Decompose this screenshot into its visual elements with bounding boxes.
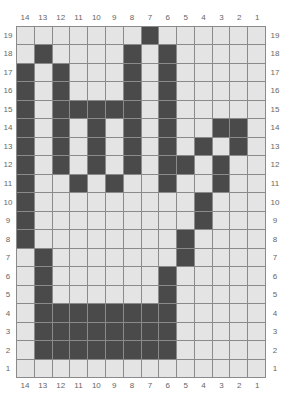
column-label: 12 [52,381,70,390]
empty-cell [106,82,123,99]
empty-cell [70,212,87,229]
empty-cell [230,156,247,173]
filled-cell [230,119,247,136]
empty-cell [124,267,141,284]
empty-cell [248,156,265,173]
row-label: 3 [268,323,282,342]
empty-cell [142,64,159,81]
filled-cell [88,341,105,358]
empty-cell [230,341,247,358]
empty-cell [230,101,247,118]
column-label: 8 [123,381,141,390]
filled-cell [177,249,194,266]
empty-cell [195,156,212,173]
empty-cell [17,267,34,284]
empty-cell [213,267,230,284]
empty-cell [177,138,194,155]
column-label: 2 [230,13,248,22]
row-label: 1 [1,360,15,379]
empty-cell [142,360,159,377]
filled-cell [124,138,141,155]
empty-cell [35,193,52,210]
filled-cell [124,304,141,321]
empty-cell [35,230,52,247]
empty-cell [213,249,230,266]
filled-cell [53,101,70,118]
empty-cell [213,45,230,62]
filled-cell [195,138,212,155]
filled-cell [35,286,52,303]
filled-cell [70,341,87,358]
empty-cell [248,212,265,229]
empty-cell [248,230,265,247]
filled-cell [17,175,34,192]
empty-cell [230,212,247,229]
empty-cell [53,249,70,266]
empty-cell [124,230,141,247]
empty-cell [142,175,159,192]
filled-cell [159,101,176,118]
empty-cell [53,360,70,377]
empty-cell [35,27,52,44]
chart-grid [16,26,266,378]
row-label: 5 [268,285,282,304]
filled-cell [70,304,87,321]
filled-cell [17,156,34,173]
column-label: 10 [87,381,105,390]
row-label: 3 [1,323,15,342]
empty-cell [177,27,194,44]
empty-cell [142,82,159,99]
empty-cell [106,64,123,81]
empty-cell [142,286,159,303]
empty-cell [35,175,52,192]
empty-cell [177,175,194,192]
empty-cell [195,64,212,81]
empty-cell [195,82,212,99]
empty-cell [88,175,105,192]
column-labels-top: 1413121110987654321 [16,13,266,22]
empty-cell [248,64,265,81]
column-label: 14 [16,13,34,22]
empty-cell [17,249,34,266]
column-label: 1 [248,13,266,22]
filled-cell [70,323,87,340]
filled-cell [53,138,70,155]
empty-cell [248,175,265,192]
filled-cell [70,175,87,192]
empty-cell [142,101,159,118]
empty-cell [17,286,34,303]
empty-cell [142,230,159,247]
empty-cell [213,82,230,99]
empty-cell [106,286,123,303]
empty-cell [88,27,105,44]
filled-cell [88,101,105,118]
empty-cell [35,212,52,229]
empty-cell [230,286,247,303]
column-label: 6 [159,13,177,22]
filled-cell [159,82,176,99]
column-label: 11 [70,381,88,390]
empty-cell [177,82,194,99]
filled-cell [106,101,123,118]
row-label: 9 [1,211,15,230]
row-label: 5 [1,285,15,304]
empty-cell [230,64,247,81]
empty-cell [17,27,34,44]
row-label: 10 [268,193,282,212]
empty-cell [248,193,265,210]
empty-cell [70,156,87,173]
empty-cell [213,64,230,81]
empty-cell [88,286,105,303]
row-label: 12 [268,156,282,175]
row-label: 12 [1,156,15,175]
empty-cell [142,45,159,62]
column-label: 12 [52,13,70,22]
empty-cell [88,45,105,62]
empty-cell [17,341,34,358]
empty-cell [17,323,34,340]
empty-cell [195,304,212,321]
empty-cell [230,249,247,266]
empty-cell [177,304,194,321]
empty-cell [106,156,123,173]
filled-cell [213,175,230,192]
